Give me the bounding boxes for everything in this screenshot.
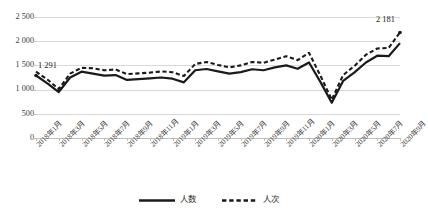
legend-label: 人次 (263, 196, 279, 204)
chart-legend: 人数人次 (0, 192, 418, 208)
legend-item-人次[interactable]: 人次 (222, 196, 279, 205)
y-tick-mark (33, 90, 36, 91)
legend-label: 人数 (180, 196, 196, 204)
data-point-marker (34, 74, 38, 78)
data-value-label: 2 181 (376, 16, 395, 24)
series-line-人次 (36, 32, 400, 99)
y-tick-mark (33, 17, 36, 18)
data-value-label: 1 291 (38, 62, 57, 70)
y-tick-mark (33, 41, 36, 42)
data-point-marker (398, 31, 402, 35)
y-tick-mark (33, 65, 36, 66)
solid-line-icon (139, 196, 175, 205)
legend-item-人数[interactable]: 人数 (139, 196, 196, 205)
y-tick-mark (33, 138, 36, 139)
dashed-line-icon (222, 196, 258, 205)
y-tick-mark (33, 114, 36, 115)
